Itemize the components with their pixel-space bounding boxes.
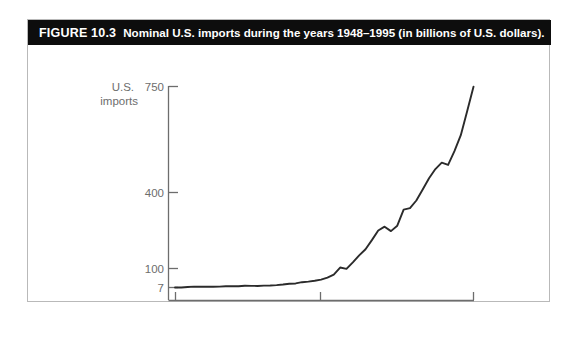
figure-container: FIGURE 10.3 Nominal U.S. imports during … — [27, 19, 550, 302]
figure-number: FIGURE 10.3 — [39, 26, 116, 40]
figure-caption: Nominal U.S. imports during the years 19… — [123, 26, 544, 39]
y-tick-label-100: 100 — [145, 263, 164, 275]
figure-title-banner: FIGURE 10.3 Nominal U.S. imports during … — [28, 20, 551, 45]
imports-series-line — [175, 87, 474, 288]
y-tick-label-7: 7 — [158, 282, 164, 294]
y-tick-label-400: 400 — [145, 187, 164, 199]
chart-plot-area: 750 400 100 7 U.S. imports 1948 1972 199… — [28, 45, 551, 302]
y-axis-label-line1: U.S. — [112, 81, 134, 93]
y-axis-label-line2: imports — [100, 95, 138, 107]
imports-line-chart: 750 400 100 7 U.S. imports 1948 1972 199… — [28, 45, 551, 302]
y-tick-label-750: 750 — [145, 81, 164, 93]
